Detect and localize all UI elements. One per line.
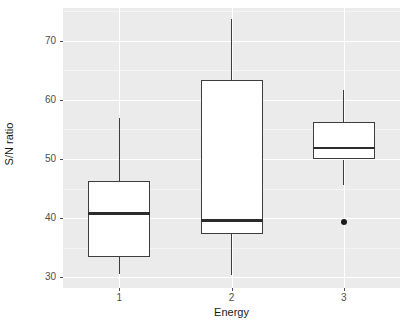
x-tick-label: 3 (324, 292, 364, 303)
x-tick-mark (232, 288, 233, 291)
x-axis-title: Energy (63, 306, 400, 318)
x-axis-ticks: 123 (0, 0, 409, 330)
x-tick-label: 2 (212, 292, 252, 303)
x-tick-mark (344, 288, 345, 291)
x-tick-mark (119, 288, 120, 291)
boxplot-chart: S/N ratio 3040506070 123 Energy (0, 0, 409, 330)
x-tick-label: 1 (99, 292, 139, 303)
